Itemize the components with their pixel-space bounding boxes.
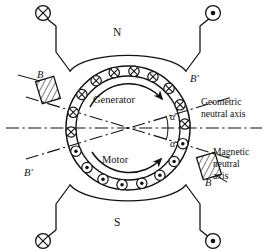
conductor-dot [101, 177, 105, 181]
armature-conductor [77, 89, 87, 99]
armature-conductor [164, 83, 174, 93]
armature-conductor [109, 67, 119, 77]
armature-conductor [148, 72, 158, 82]
brush-label-upper-right: B′ [190, 73, 199, 84]
conductor-dot [74, 149, 78, 153]
conductor-dot [140, 182, 144, 186]
conductor-dot [85, 166, 89, 170]
armature-reaction-diagram: N S α α [0, 0, 268, 252]
field-coil-bottom-right-dot [211, 239, 216, 244]
field-coil-bottom-right [206, 234, 221, 249]
geometric-axis-label-line1: Geometric [201, 96, 242, 107]
brush-label-lower-left: B′ [24, 167, 33, 178]
conductor-dot [120, 183, 124, 187]
armature-conductor [169, 156, 179, 166]
armature-conductor [68, 107, 78, 117]
armature-conductor [82, 162, 92, 172]
armature-conductor [155, 170, 165, 180]
armature-conductor [137, 178, 147, 188]
alpha-label-upper: α [170, 111, 176, 122]
alpha-label-lower: α [170, 138, 176, 149]
conductor-dot [172, 160, 176, 164]
magnetic-axis-label-line2: neutral [213, 158, 240, 169]
conductor-dot [158, 173, 162, 177]
armature-conductor [178, 139, 188, 149]
conductor-dot [181, 142, 185, 146]
armature-conductor [98, 174, 108, 184]
armature-conductor [117, 179, 127, 189]
armature-conductor [66, 127, 76, 137]
brush-label-lower-right: B [205, 177, 212, 188]
armature-conductor [180, 119, 190, 129]
field-coil-top-right [206, 6, 221, 21]
field-coil-top-right-dot [211, 11, 216, 16]
field-coil-bottom-left [36, 234, 51, 249]
brush-label-upper-left: B [37, 69, 44, 80]
field-coil-top-left [36, 6, 51, 21]
armature-conductor [129, 66, 139, 76]
north-pole-label: N [113, 26, 122, 38]
geometric-axis-label-line2: neutral axis [201, 108, 246, 119]
magnetic-axis-label-line3: axis [213, 170, 229, 181]
south-pole-label: S [114, 216, 120, 228]
armature-conductor [91, 76, 101, 86]
magnetic-axis-label-line1: Magnetic [213, 146, 249, 157]
armature-conductor [175, 100, 185, 110]
motor-label: Motor [102, 154, 129, 165]
generator-label: Generator [93, 94, 135, 105]
armature-conductor [71, 146, 81, 156]
